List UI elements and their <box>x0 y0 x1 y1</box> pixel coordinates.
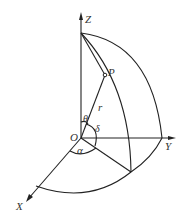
spherical-coordinate-diagram: Z Y X O P r θ δ α <box>0 0 189 218</box>
alpha-label: α <box>77 145 83 156</box>
alpha-arc <box>70 148 96 154</box>
z-arrowhead <box>79 12 83 20</box>
projection-line <box>81 138 131 172</box>
delta-label: δ <box>95 124 100 134</box>
y-axis-label: Y <box>165 141 171 152</box>
x-axis <box>29 138 81 198</box>
origin-label: O <box>70 132 78 143</box>
z-axis-label: Z <box>85 14 91 25</box>
theta-label: θ <box>83 114 88 124</box>
meridian-arc <box>81 33 131 172</box>
x-axis-label: X <box>16 201 23 212</box>
outer-arc-xy <box>36 138 162 193</box>
point-p-marker <box>103 73 107 77</box>
point-p-label: P <box>108 67 115 78</box>
diagram-lines <box>0 0 189 218</box>
outer-arc-zy <box>81 33 162 138</box>
radius-label: r <box>98 102 102 113</box>
z-to-p-line <box>81 33 105 75</box>
